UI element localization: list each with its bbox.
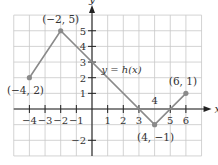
x-tick-label: 1	[104, 115, 110, 126]
x-tick-label: −3	[38, 115, 53, 126]
data-point	[58, 28, 63, 33]
function-label: y = h(x)	[100, 64, 141, 75]
data-point	[152, 122, 157, 127]
graph-of-h: x y −4−3−2−11235654321−2 (−4, 2)(−2, 5)(…	[0, 0, 218, 165]
y-axis-label: y	[88, 0, 96, 6]
x-tick-label: −1	[69, 115, 84, 126]
point-label: (4, −1)	[137, 131, 174, 143]
data-point	[27, 75, 32, 80]
y-tick-label: −2	[71, 135, 86, 146]
tick-labels: −4−3−2−11235654321−2	[22, 26, 189, 147]
x-axis-arrow-icon	[204, 106, 212, 112]
point-label: (6, 1)	[169, 75, 197, 87]
x-tick-label: 3	[136, 115, 142, 126]
y-tick-label: 2	[80, 73, 86, 84]
data-point	[183, 91, 188, 96]
x-tick-label: −4	[22, 115, 37, 126]
extra-tick-label: 4	[151, 95, 157, 106]
x-tick-label: 5	[167, 115, 173, 126]
x-tick-label: −2	[53, 115, 68, 126]
point-label: (−2, 5)	[42, 13, 79, 25]
y-tick-label: 3	[80, 57, 86, 68]
y-tick-label: 5	[80, 26, 86, 37]
x-tick-label: 6	[183, 115, 189, 126]
y-axis-arrow-icon	[89, 5, 95, 13]
y-tick-label: 1	[80, 88, 86, 99]
x-axis-label: x	[215, 103, 218, 116]
x-tick-label: 2	[120, 115, 126, 126]
point-label: (−4, 2)	[7, 84, 44, 96]
